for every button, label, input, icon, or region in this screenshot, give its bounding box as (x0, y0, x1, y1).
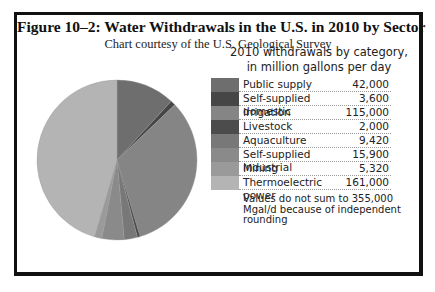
legend-swatch (211, 134, 239, 148)
legend-label: Aquaculture (243, 134, 306, 147)
legend-item: Self-supplied domestic3,600 (211, 92, 391, 106)
legend-value: 9,420 (359, 134, 389, 147)
legend-row-text: Thermoelectric power161,000 (239, 176, 391, 190)
legend-item: Public supply42,000 (211, 78, 391, 92)
legend-row-text: Public supply42,000 (239, 78, 391, 92)
legend-value: 3,600 (359, 92, 389, 105)
legend-label: Self-supplied industrial (243, 148, 352, 161)
legend: Public supply42,000Self-supplied domesti… (211, 78, 391, 190)
legend-label: Livestock (243, 120, 292, 133)
legend-item: Mining5,320 (211, 162, 391, 176)
legend-swatch (211, 106, 239, 120)
legend-row-text: Self-supplied industrial15,900 (239, 148, 391, 162)
legend-swatch (211, 162, 239, 176)
legend-swatch (211, 176, 239, 190)
legend-value: 2,000 (359, 120, 389, 133)
legend-value: 5,320 (359, 162, 389, 175)
legend-swatch (211, 78, 239, 92)
legend-row-text: Self-supplied domestic3,600 (239, 92, 391, 106)
legend-title-line-2: in million gallons per day (229, 60, 409, 75)
legend-row-text: Aquaculture9,420 (239, 134, 391, 148)
legend-value: 15,900 (352, 148, 389, 161)
legend-value: 115,000 (346, 106, 389, 119)
legend-item: Irrigation115,000 (211, 106, 391, 120)
legend-label: Thermoelectric power (243, 176, 346, 189)
legend-row-text: Mining5,320 (239, 162, 391, 176)
legend-swatch (211, 120, 239, 134)
legend-title-line-1: 2010 withdrawals by category, (229, 45, 409, 60)
legend-value: 42,000 (352, 78, 389, 91)
legend-row-text: Irrigation115,000 (239, 106, 391, 120)
legend-swatch (211, 92, 239, 106)
legend-item: Aquaculture9,420 (211, 134, 391, 148)
legend-item: Livestock2,000 (211, 120, 391, 134)
legend-title: 2010 withdrawals by category, in million… (229, 45, 409, 75)
legend-label: Public supply (243, 78, 312, 91)
legend-swatch (211, 148, 239, 162)
legend-item: Thermoelectric power161,000 (211, 176, 391, 190)
legend-row-text: Livestock2,000 (239, 120, 391, 134)
legend-item: Self-supplied industrial15,900 (211, 148, 391, 162)
legend-label: Mining (243, 162, 278, 175)
legend-value: 161,000 (346, 176, 389, 189)
legend-label: Irrigation (243, 106, 291, 119)
footnote: Values do not sum to 355,000 Mgal/d beca… (243, 194, 403, 226)
figure-frame: Figure 10–2: Water Withdrawals in the U.… (14, 12, 423, 276)
legend-label: Self-supplied domestic (243, 92, 359, 105)
